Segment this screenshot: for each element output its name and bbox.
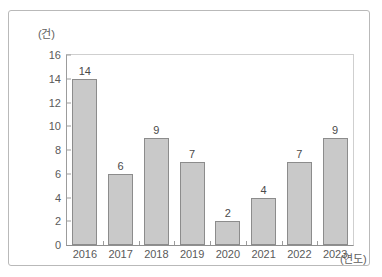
y-axis-tick-mark [67, 55, 71, 56]
y-axis-tick-mark [67, 197, 71, 198]
bar: 142016 [72, 79, 97, 245]
x-axis-tick-mark [210, 241, 211, 245]
x-axis-category-label: 2018 [144, 248, 168, 260]
y-axis-tick-label: 0 [55, 239, 61, 251]
x-axis-tick-mark [246, 241, 247, 245]
y-axis-tick-label: 4 [55, 192, 61, 204]
bar: 92018 [144, 138, 169, 245]
bar: 42021 [251, 198, 276, 246]
y-axis-tick-label: 6 [55, 168, 61, 180]
y-axis-tick-label: 10 [49, 120, 61, 132]
y-axis-tick-mark [67, 150, 71, 151]
bar: 62017 [108, 174, 133, 245]
y-axis-tick-label: 2 [55, 215, 61, 227]
x-axis-category-label: 2017 [108, 248, 132, 260]
y-axis-tick-label: 8 [55, 144, 61, 156]
y-axis-tick-mark [67, 102, 71, 103]
bar: 72019 [180, 162, 205, 245]
y-axis-tick-mark [67, 173, 71, 174]
bar-value-label: 14 [79, 65, 91, 77]
x-axis-tick-mark [317, 241, 318, 245]
bar-value-label: 6 [118, 160, 124, 172]
bar-value-label: 9 [332, 124, 338, 136]
y-axis-unit-label: (건) [38, 25, 55, 41]
y-axis-tick-label: 14 [49, 73, 61, 85]
y-axis-tick-mark [67, 126, 71, 127]
y-axis-tick-mark [67, 78, 71, 79]
bar-value-label: 9 [153, 124, 159, 136]
x-axis-tick-mark [174, 241, 175, 245]
x-axis-tick-mark [282, 241, 283, 245]
x-axis-category-label: 2016 [73, 248, 97, 260]
x-axis-tick-mark [139, 241, 140, 245]
y-axis-tick-label: 16 [49, 49, 61, 61]
bar: 22020 [215, 221, 240, 245]
bar-value-label: 7 [296, 148, 302, 160]
x-axis-category-label: 2020 [216, 248, 240, 260]
x-axis-category-label: 2023 [323, 248, 347, 260]
bar: 72022 [287, 162, 312, 245]
y-axis-tick-label: 12 [49, 97, 61, 109]
y-axis-tick-mark [67, 221, 71, 222]
x-axis-category-label: 2021 [251, 248, 275, 260]
x-axis-category-label: 2019 [180, 248, 204, 260]
plot-area: 0246810121416 14201662017920187201922020… [66, 54, 354, 246]
x-axis-tick-mark [103, 241, 104, 245]
figure-frame: (건) (연도) 0246810121416 14201662017920187… [8, 10, 370, 266]
bar-value-label: 7 [189, 148, 195, 160]
bar-value-label: 4 [261, 184, 267, 196]
bar: 92023 [323, 138, 348, 245]
x-axis-category-label: 2022 [287, 248, 311, 260]
bar-value-label: 2 [225, 207, 231, 219]
